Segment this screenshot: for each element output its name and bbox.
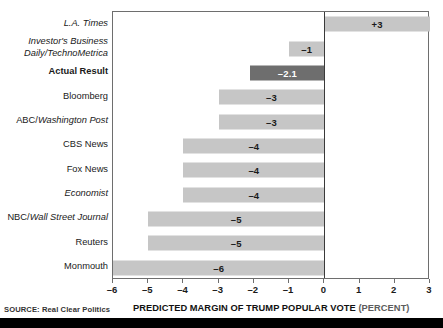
category-axis-labels: L.A. Times Investor's Business Daily/Tec… [0,11,108,279]
x-tick-label: –3 [212,284,223,295]
category-label-nbc-wall-street-journal: NBC/Wall Street Journal [0,212,108,223]
bar-row: +3 [113,12,428,36]
x-tick-mark [182,279,183,283]
x-tick-mark [359,279,360,283]
bar-value-label: –6 [213,262,224,273]
category-label-row: Fox News [0,157,108,181]
x-tick-mark [429,279,430,283]
bar-value-label: –5 [231,238,242,249]
category-label-row: NBC/Wall Street Journal [0,206,108,230]
category-label-fox-news: Fox News [0,164,108,175]
axis-title-unit: (PERCENT) [358,303,409,313]
category-label-row: Economist [0,182,108,206]
predicted-margin-bar-chart: L.A. Times Investor's Business Daily/Tec… [0,0,443,328]
bar-value-label: –4 [248,165,259,176]
category-label-row: Bloomberg [0,84,108,108]
category-label-row: Investor's Business Daily/TechnoMetrica [0,35,108,59]
x-tick-mark [394,279,395,283]
bar-row: –4 [113,183,428,207]
source-note: SOURCE: Real Clear Politics [4,305,110,314]
category-label-row: ABC/Washington Post [0,108,108,132]
category-label-reuters: Reuters [0,237,108,248]
bar-row: –3 [113,85,428,109]
bar-value-label: +3 [372,19,383,30]
category-label-row: L.A. Times [0,11,108,35]
bar-row: –3 [113,109,428,133]
axis-title: PREDICTED MARGIN OF TRUMP POPULAR VOTE (… [133,303,410,313]
x-tick-label: 2 [391,284,396,295]
x-tick-mark [112,279,113,283]
x-tick-label: –6 [107,284,118,295]
category-label-abc-washington-post: ABC/Washington Post [0,115,108,126]
bar-row: –2.1 [113,61,428,85]
category-label-row: Actual Result [0,60,108,84]
bar-row: –5 [113,207,428,231]
bar-value-label: –3 [266,116,277,127]
x-tick-label: 3 [426,284,431,295]
x-tick-label: –1 [283,284,294,295]
x-tick-label: –5 [142,284,153,295]
bar-row: –5 [113,231,428,255]
x-tick-label: 0 [321,284,326,295]
x-tick-mark [253,279,254,283]
category-label-row: Reuters [0,230,108,254]
category-label-investors-business-daily: Investor's Business Daily/TechnoMetrica [0,36,108,58]
category-label-la-times: L.A. Times [0,18,108,29]
x-axis: –6–5–4–3–2–10123 [112,279,429,299]
bar-row: –1 [113,36,428,60]
category-label-monmouth: Monmouth [0,261,108,272]
x-tick-mark [323,279,324,283]
category-label-row: CBS News [0,133,108,157]
x-tick-mark [147,279,148,283]
plot-area: +3–1–2.1–3–3–4–4–4–5–5–6 [112,11,429,279]
x-tick-mark [218,279,219,283]
x-tick-label: 1 [356,284,361,295]
category-label-cbs-news: CBS News [0,139,108,150]
axis-title-main: PREDICTED MARGIN OF TRUMP POPULAR VOTE [133,303,358,313]
bar-value-label: –1 [301,43,312,54]
bar-value-label: –4 [248,189,259,200]
category-label-actual-result: Actual Result [0,66,108,77]
bar-row: –4 [113,134,428,158]
bar-row: –6 [113,256,428,280]
x-tick-mark [288,279,289,283]
bar-row: –4 [113,158,428,182]
bar-value-label: –3 [266,92,277,103]
bottom-black-band [0,318,443,328]
bar-value-label: –4 [248,140,259,151]
zero-axis-line [324,12,325,278]
x-tick-label: –2 [248,284,259,295]
category-label-economist: Economist [0,188,108,199]
bar-value-label: –2.1 [278,67,297,78]
bar-value-label: –5 [231,214,242,225]
category-label-bloomberg: Bloomberg [0,91,108,102]
x-tick-label: –4 [177,284,188,295]
category-label-row: Monmouth [0,255,108,279]
